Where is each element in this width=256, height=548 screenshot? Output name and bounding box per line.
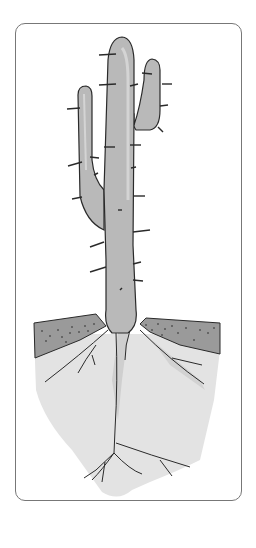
left-arm [78, 86, 104, 230]
main-stem [104, 37, 136, 333]
cactus [78, 37, 160, 333]
root-zone [34, 334, 220, 497]
cactus-illustration [0, 0, 256, 548]
right-arm [132, 59, 160, 130]
